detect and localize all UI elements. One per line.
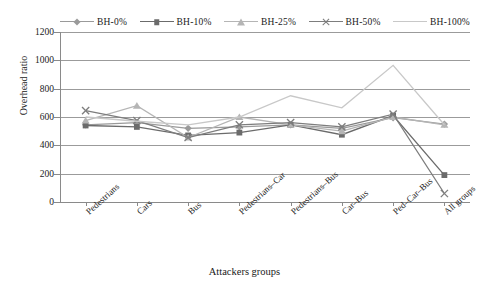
data-point-square-icon <box>134 124 140 130</box>
data-point-triangle-icon <box>133 102 141 109</box>
data-point-diamond-icon <box>184 125 191 132</box>
chart-container: BH-0% BH-10% BH-25% BH-50% <box>0 0 489 291</box>
x-axis-title: Attackers groups <box>0 266 489 277</box>
data-point-x-icon <box>441 190 448 197</box>
data-series-layer <box>0 0 489 291</box>
data-point-square-icon <box>236 130 242 136</box>
data-point-square-icon <box>441 172 447 178</box>
